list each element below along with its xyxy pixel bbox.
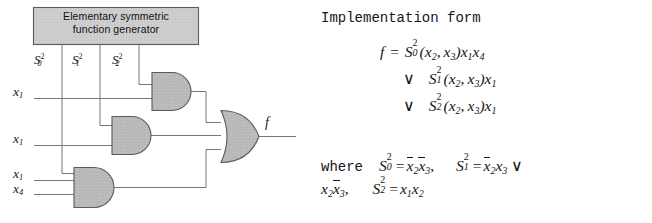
eq1-tail: x1x4	[461, 43, 485, 60]
and-gate-bottom	[74, 168, 114, 208]
eq2-tail: x1	[485, 70, 497, 87]
signal-label-s1: S21	[72, 52, 80, 68]
where-def-s0: S20=x2x3,	[379, 157, 438, 174]
figure-root: Elementary symmetric function generator …	[0, 0, 652, 223]
circuit-diagram: Elementary symmetric function generator …	[0, 0, 320, 223]
and-gate-top	[152, 73, 191, 111]
equation-line-3: ∨ S22 (x2, x3)x1	[403, 97, 497, 116]
eq2-args: (x2, x3)	[444, 70, 485, 87]
equation-line-1: f = S20 (x2, x3)x1x4	[380, 43, 484, 62]
where-line-2: x2x3, S22=x1x2	[321, 180, 424, 199]
implementation-form-heading: Implementation form	[321, 10, 481, 26]
eq2-S-symbol: S21	[429, 70, 437, 88]
eq3-S-symbol: S22	[429, 97, 437, 115]
eq1-args: (x2, x3)	[420, 43, 461, 60]
where-def-s1: S21=x2x3 ∨	[456, 157, 523, 174]
eq1-S-symbol: S20	[405, 43, 413, 61]
or-gate	[221, 111, 259, 163]
signal-label-s2: S22	[112, 52, 120, 68]
generator-block-label-line2: function generator	[34, 23, 198, 36]
eq3-vee: ∨	[403, 97, 415, 114]
signal-label-s0: S20	[34, 52, 42, 68]
input-label-x1-mid: x1	[13, 131, 23, 147]
where-def-s1-cont: x2x3,	[321, 180, 349, 197]
where-line-1: where S20=x2x3, S21=x2x3 ∨	[321, 157, 523, 176]
eq3-args: (x2, x3)	[444, 97, 485, 114]
and-gate-middle	[112, 117, 151, 155]
eq2-vee: ∨	[403, 70, 415, 87]
equation-line-2: ∨ S21 (x2, x3)x1	[403, 70, 497, 89]
generator-block-label-line1: Elementary symmetric	[34, 10, 198, 23]
input-label-x4: x4	[13, 181, 23, 197]
eq1-lhs: f	[380, 43, 384, 60]
where-def-s2: S22=x1x2	[372, 180, 423, 197]
implementation-form-panel: Implementation form f = S20 (x2, x3)x1x4…	[320, 0, 652, 223]
eq1-equals: =	[388, 43, 401, 60]
where-keyword: where	[321, 159, 363, 175]
output-label-f: f	[265, 115, 269, 131]
eq3-tail: x1	[485, 97, 497, 114]
input-label-x1-low: x1	[13, 166, 23, 182]
input-label-x1-top: x1	[13, 84, 23, 100]
generator-block-label: Elementary symmetric function generator	[34, 10, 198, 35]
